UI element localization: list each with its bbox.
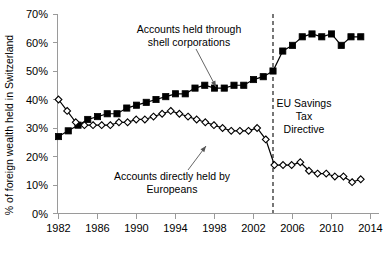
data-point-marker-square [133, 102, 139, 108]
data-point-marker-square [104, 111, 110, 117]
annotation-line: EU Savings [277, 97, 332, 109]
y-axis-title: % of foreign wealth held in Switzerland [3, 35, 15, 216]
x-tick-label: 2010 [319, 222, 343, 234]
data-point-marker-square [94, 114, 100, 120]
annotation-line: shell corporations [148, 36, 230, 48]
data-point-marker-square [231, 82, 237, 88]
data-point-marker-square [358, 34, 364, 40]
x-tick-label: 1998 [202, 222, 226, 234]
data-point-marker-square [260, 74, 266, 80]
y-tick-label: 20% [26, 151, 48, 163]
data-point-marker-square [250, 76, 256, 82]
annotation-line: Directive [284, 123, 325, 135]
data-point-marker-square [114, 111, 120, 117]
data-point-marker-square [280, 48, 286, 54]
data-point-marker-square [211, 85, 217, 91]
x-tick-label: 1982 [46, 222, 70, 234]
data-point-marker-square [65, 128, 71, 134]
x-tick-label: 2006 [280, 222, 304, 234]
y-tick-label: 70% [26, 8, 48, 20]
y-tick-label: 60% [26, 37, 48, 49]
y-tick-label: 10% [26, 179, 48, 191]
annotation-line: Tax [296, 110, 313, 122]
x-tick-label: 2002 [241, 222, 265, 234]
data-point-marker-square [328, 31, 334, 37]
annotation-line: Accounts directly held by [114, 170, 231, 182]
chart-container: % of foreign wealth held in Switzerland … [0, 0, 386, 258]
data-point-marker-square [163, 94, 169, 100]
data-point-marker-square [319, 34, 325, 40]
annotation-line: Europeans [147, 183, 198, 195]
annotation-line: Accounts held through [137, 23, 242, 35]
data-point-marker-square [241, 82, 247, 88]
data-point-marker-square [153, 96, 159, 102]
line-chart-figure: % of foreign wealth held in Switzerland … [0, 0, 386, 258]
x-tick-label: 1986 [85, 222, 109, 234]
data-point-marker-square [289, 42, 295, 48]
y-tick-label: 30% [26, 122, 48, 134]
data-point-marker-square [85, 116, 91, 122]
data-point-marker-square [172, 91, 178, 97]
shell-corporations-label: Accounts held throughshell corporations [137, 23, 242, 48]
data-point-marker-square [221, 85, 227, 91]
data-point-marker-square [202, 82, 208, 88]
x-tick-label: 1990 [124, 222, 148, 234]
x-tick-label: 1994 [163, 222, 187, 234]
y-tick-label: 50% [26, 65, 48, 77]
data-point-marker-square [55, 133, 61, 139]
data-point-marker-square [309, 31, 315, 37]
data-point-marker-square [124, 105, 130, 111]
y-tick-label: 0% [32, 208, 48, 220]
data-point-marker-square [348, 34, 354, 40]
data-point-marker-square [143, 99, 149, 105]
y-tick-label: 40% [26, 94, 48, 106]
x-tick-label: 2014 [358, 222, 382, 234]
data-point-marker-square [192, 85, 198, 91]
data-point-marker-square [299, 34, 305, 40]
y-axis-title-text: % of foreign wealth held in Switzerland [3, 35, 15, 216]
data-point-marker-square [182, 91, 188, 97]
data-point-marker-square [338, 42, 344, 48]
data-point-marker-square [270, 68, 276, 74]
